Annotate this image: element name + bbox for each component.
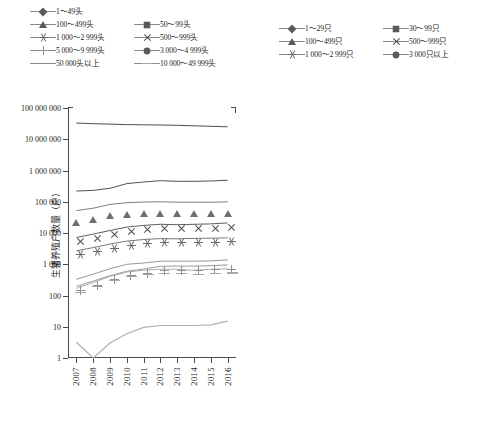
circle-marker-icon xyxy=(393,51,400,58)
x-tick xyxy=(76,358,77,363)
triangle-marker-icon xyxy=(156,193,164,217)
legend-label: 100～499只 xyxy=(305,38,343,46)
legend-label: 3 000～4 999头 xyxy=(160,47,209,55)
legend-item[interactable]: 50～99头 xyxy=(134,18,242,31)
legend-a: 1～49头100～499头50～99头1 000～2 999头500～999头5… xyxy=(30,5,246,70)
legend-symbol xyxy=(134,58,160,69)
legend-row: 5 000～9 999头3 000～4 999头 xyxy=(30,44,246,57)
legend-label: 30～99只 xyxy=(409,25,440,33)
legend-item[interactable]: 100～499头 xyxy=(30,18,134,31)
y-tick-label: 10 000 xyxy=(39,229,61,238)
legend-item[interactable]: 3 000只以上 xyxy=(383,48,491,61)
legend-item[interactable]: 1 000～2 999只 xyxy=(279,48,383,61)
legend-symbol xyxy=(279,36,305,47)
star-marker-icon xyxy=(288,51,296,59)
triangle-marker-icon xyxy=(39,21,47,28)
triangle-marker-icon xyxy=(207,193,215,217)
legend-item[interactable]: 500～999头 xyxy=(134,31,242,44)
data-point xyxy=(156,193,164,211)
legend-item[interactable]: 3 000～4 999头 xyxy=(134,44,242,57)
x-tick-label: 2010 xyxy=(122,367,132,386)
legend-row: 1 000～2 999只3 000只以上 xyxy=(279,48,491,61)
legend-label: 50～99头 xyxy=(160,21,191,29)
x-tick xyxy=(194,358,195,363)
legend-item[interactable]: 1～29只 xyxy=(279,22,383,35)
y-tick-label: 100 xyxy=(49,291,61,300)
legend-symbol xyxy=(30,58,56,69)
legend-symbol xyxy=(134,45,160,56)
legend-item[interactable]: 50 000头以上 xyxy=(30,57,134,70)
x-tick xyxy=(110,358,111,363)
legend-symbol xyxy=(134,19,160,30)
legend-symbol xyxy=(279,23,305,34)
legend-row: 50 000头以上10 000～49 999头 xyxy=(30,57,246,70)
triangle-marker-icon xyxy=(106,195,114,219)
legend-label: 5 000～9 999头 xyxy=(56,47,105,55)
data-point xyxy=(123,194,131,212)
legend-item[interactable]: 1 000～2 999头 xyxy=(30,31,134,44)
x-marker-icon xyxy=(392,38,400,46)
x-tick xyxy=(177,358,178,363)
star-marker-icon xyxy=(39,34,47,42)
square-marker-icon xyxy=(144,21,151,28)
legend-item[interactable]: 100～499只 xyxy=(279,35,383,48)
x-tick-label: 2012 xyxy=(155,367,165,386)
triangle-marker-icon xyxy=(140,193,148,217)
triangle-marker-icon xyxy=(190,193,198,217)
data-point xyxy=(106,195,114,213)
x-tick xyxy=(160,358,161,363)
legend-item[interactable]: 10 000～49 999头 xyxy=(134,57,242,70)
y-tick-label: 10 xyxy=(53,322,61,331)
legend-row: 100～499只500～999只 xyxy=(279,35,491,48)
figure-root: 1～49头100～499头50～99头1 000～2 999头500～999头5… xyxy=(0,0,493,426)
legend-item[interactable]: 500～999只 xyxy=(383,35,491,48)
legend-symbol xyxy=(30,19,56,30)
subfigure-b: 1～29只30～99只100～499只500～999只1 000～2 999只3… xyxy=(247,0,493,426)
legend-b: 1～29只30～99只100～499只500～999只1 000～2 999只3… xyxy=(279,22,491,61)
circle-marker-icon xyxy=(144,47,151,54)
x-tick-label: 2008 xyxy=(88,367,98,386)
data-point xyxy=(190,193,198,211)
x-tick xyxy=(211,358,212,363)
legend-symbol xyxy=(30,6,56,17)
x-tick-label: 2007 xyxy=(71,367,81,386)
series-line xyxy=(76,202,227,211)
legend-label: 500～999头 xyxy=(160,34,198,42)
y-tick-label: 1 xyxy=(57,354,61,363)
y-tick-label: 1 000 xyxy=(43,260,61,269)
x-tick-label: 2016 xyxy=(223,367,233,386)
legend-label: 1 000～2 999只 xyxy=(305,51,354,59)
diamond-marker-icon xyxy=(39,7,48,16)
data-point xyxy=(89,199,97,217)
legend-row: 100～499头50～99头 xyxy=(30,18,246,31)
x-tick-label: 2015 xyxy=(206,367,216,386)
legend-label: 500～999只 xyxy=(409,38,447,46)
legend-symbol xyxy=(30,45,56,56)
x-tick xyxy=(93,358,94,363)
legend-item[interactable]: 1～49头 xyxy=(30,5,134,18)
x-tick xyxy=(228,358,229,363)
legend-label: 100～499头 xyxy=(56,21,94,29)
data-point xyxy=(72,202,80,220)
y-tick-label: 100 000 xyxy=(35,197,61,206)
legend-label: 1 000～2 999头 xyxy=(56,34,105,42)
legend-item[interactable]: 30～99只 xyxy=(383,22,491,35)
legend-item[interactable]: 5 000～9 999头 xyxy=(30,44,134,57)
y-tick-label: 100 000 000 xyxy=(21,104,61,113)
legend-symbol xyxy=(30,32,56,43)
triangle-marker-icon xyxy=(123,194,131,218)
plot-area-a: 生猪养殖户数量（户） 年份 (a) 1101001 00010 000100 0… xyxy=(68,108,236,358)
data-point xyxy=(173,193,181,211)
legend-row: 1～29只30～99只 xyxy=(279,22,491,35)
legend-label: 10 000～49 999头 xyxy=(160,60,216,68)
diamond-marker-icon xyxy=(288,24,297,33)
legend-symbol xyxy=(383,23,409,34)
series-line xyxy=(76,321,227,358)
legend-label: 50 000头以上 xyxy=(56,60,100,68)
data-point xyxy=(224,193,232,211)
square-marker-icon xyxy=(393,25,400,32)
legend-row: 1～49头 xyxy=(30,5,246,18)
legend-label: 3 000只以上 xyxy=(409,51,449,59)
data-point xyxy=(140,193,148,211)
series-lines xyxy=(68,108,236,358)
